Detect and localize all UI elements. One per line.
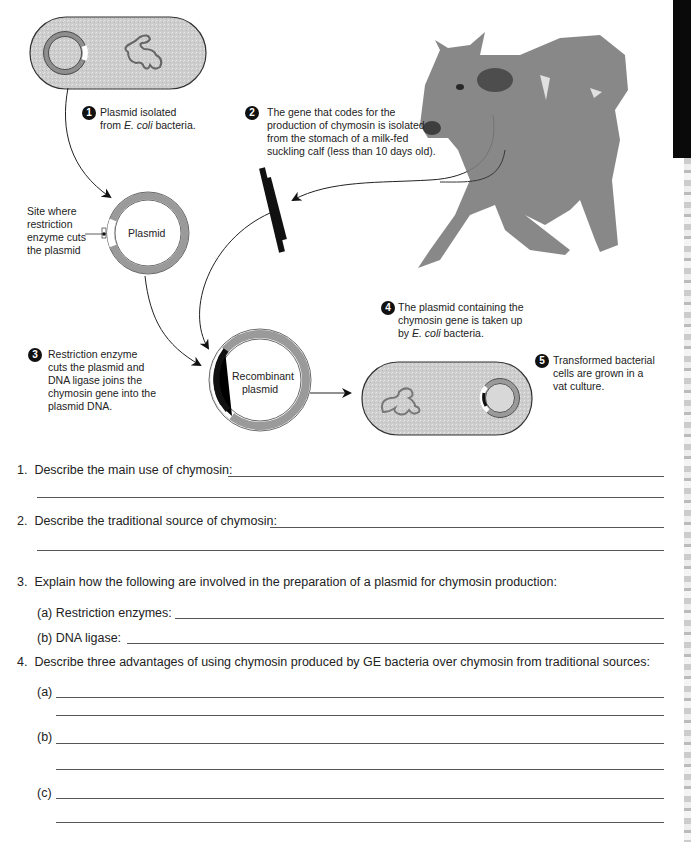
question-4a: (a)	[37, 685, 52, 699]
step-4-label: The plasmid containing the chymosin gene…	[398, 301, 524, 340]
ecoli-cell-transformed	[362, 362, 532, 435]
step-3-badge: 3	[28, 348, 42, 362]
answer-line-4c2[interactable]	[56, 822, 664, 823]
answer-line-1a[interactable]	[228, 476, 664, 477]
answer-line-2b[interactable]	[37, 550, 664, 551]
answer-line-4a2[interactable]	[56, 715, 664, 716]
question-2: 2. Describe the traditional source of ch…	[17, 514, 277, 528]
answer-line-4c1[interactable]	[56, 798, 664, 799]
step-5-label: Transformed bacterial cells are grown in…	[553, 354, 655, 393]
answer-line-2a[interactable]	[270, 527, 664, 528]
question-4: 4. Describe three advantages of using ch…	[17, 655, 650, 669]
step-2-badge: 2	[245, 106, 259, 120]
step-1-badge: 1	[82, 106, 96, 120]
answer-line-1b[interactable]	[37, 497, 664, 498]
step-1-label: Plasmid isolated from E. coli bacteria.	[100, 106, 196, 132]
answer-line-4b1[interactable]	[56, 743, 664, 744]
answer-line-3b[interactable]	[127, 643, 664, 644]
ecoli-cell-top	[30, 17, 206, 89]
question-1: 1. Describe the main use of chymosin:	[17, 463, 232, 477]
step-2-label: The gene that codes for the production o…	[267, 106, 436, 158]
question-3a: (a) Restriction enzymes:	[37, 606, 172, 620]
answer-line-4a1[interactable]	[56, 697, 664, 698]
step-3-label: Restriction enzyme cuts the plasmid and …	[48, 348, 156, 413]
answer-line-3a[interactable]	[175, 618, 664, 619]
plasmid-label: Plasmid	[128, 227, 165, 240]
step-4-badge: 4	[381, 301, 395, 315]
question-3b: (b) DNA ligase:	[37, 631, 121, 645]
calf-image	[418, 32, 628, 268]
step-5-badge: 5	[535, 354, 549, 368]
question-3: 3. Explain how the following are involve…	[17, 575, 557, 589]
recombinant-plasmid-label: Recombinant plasmid	[232, 370, 288, 396]
question-4b: (b)	[37, 730, 52, 744]
chymosin-gene-fragment	[262, 168, 283, 252]
question-4c: (c)	[37, 786, 52, 800]
answer-line-4b2[interactable]	[56, 769, 664, 770]
restriction-site-label: Site where restriction enzyme cuts the p…	[27, 205, 86, 257]
